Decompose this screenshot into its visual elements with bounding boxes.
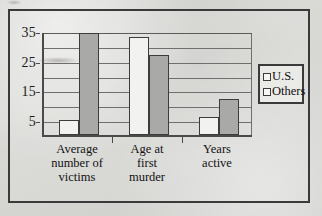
x-category-label-line: first <box>112 156 182 170</box>
gridline-35 <box>44 33 252 34</box>
plot-inner <box>44 33 252 135</box>
x-category-label-line: Age at <box>112 142 182 156</box>
bar-others-group-1 <box>79 33 99 136</box>
x-category-label-line: number of <box>42 156 112 170</box>
legend-item-u-s[interactable]: U.S. <box>263 69 299 84</box>
bar-us-group-3 <box>199 117 219 135</box>
x-category-label-line: victims <box>42 170 112 184</box>
legend-item-others[interactable]: Others <box>263 84 299 99</box>
y-tick-mark-25 <box>36 63 40 64</box>
bar-us-group-2 <box>129 37 149 135</box>
bar-others-group-2 <box>149 55 169 135</box>
y-tick-label-5: 5 <box>29 114 36 130</box>
legend-swatch-icon <box>263 88 271 96</box>
x-category-label-3: Yearsactive <box>182 142 252 170</box>
y-tick-label-15: 15 <box>21 84 36 100</box>
x-category-label-2: Age atfirstmurder <box>112 142 182 184</box>
legend-label: Others <box>272 85 305 98</box>
x-category-label-1: Averagenumber ofvictims <box>42 142 112 184</box>
plot-area <box>42 33 252 137</box>
y-tick-mark-5 <box>36 122 40 123</box>
y-tick-mark-15 <box>36 92 40 93</box>
y-tick-label-25: 25 <box>21 55 36 71</box>
x-axis-category-labels: Averagenumber ofvictimsAge atfirstmurder… <box>42 142 252 197</box>
x-category-label-line: active <box>182 156 252 170</box>
legend-label: U.S. <box>272 70 294 83</box>
x-category-label-line: Average <box>42 142 112 156</box>
bar-us-group-1 <box>59 120 79 135</box>
chart-screenshot: 3525155 Averagenumber ofvictimsAge atfir… <box>0 0 322 216</box>
y-tick-label-35: 35 <box>21 25 36 41</box>
y-axis-tick-labels: 3525155 <box>8 33 36 137</box>
x-category-label-line: Years <box>182 142 252 156</box>
x-category-label-line: murder <box>112 170 182 184</box>
chart-legend: U.S.Others <box>258 64 304 104</box>
scan-smudge-top <box>6 0 22 5</box>
y-tick-mark-35 <box>36 33 40 34</box>
legend-swatch-icon <box>263 73 271 81</box>
bar-others-group-3 <box>219 99 239 135</box>
